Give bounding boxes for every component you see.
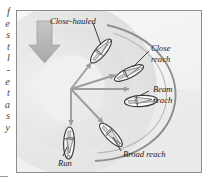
label-run: Run	[57, 158, 72, 168]
margin-rule	[0, 176, 8, 177]
label-close-reach-line1: Close	[151, 43, 171, 53]
label-broad-reach: Broad reach	[123, 149, 166, 159]
figure-page: f e s t l - e t a s y	[0, 0, 204, 186]
label-close-hauled: Close-hauled	[50, 16, 97, 26]
illustration-frame: Close-hauled Close reach Beam reach Broa…	[16, 10, 202, 173]
label-beam-reach-line2: reach	[153, 95, 172, 105]
points-of-sail-diagram: Close-hauled Close reach Beam reach Broa…	[17, 11, 201, 172]
label-beam-reach-line1: Beam	[153, 84, 173, 94]
label-close-reach-line2: reach	[151, 54, 170, 64]
margin-cutoff-text: f e s t l - e t a s y	[0, 6, 10, 134]
